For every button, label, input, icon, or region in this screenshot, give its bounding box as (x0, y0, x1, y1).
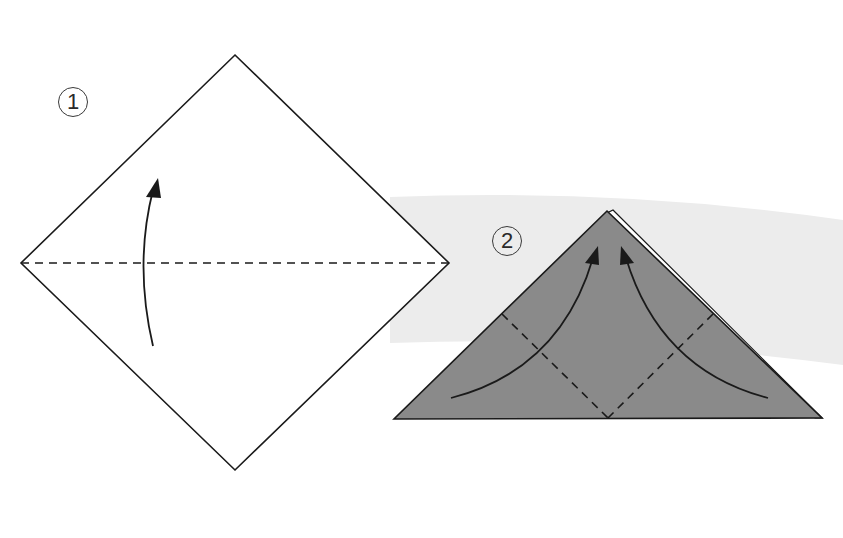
origami-diagram (0, 0, 843, 538)
step-number-1: 1 (58, 87, 88, 117)
step-1-figure (21, 55, 449, 470)
step-number-2: 2 (492, 226, 522, 256)
